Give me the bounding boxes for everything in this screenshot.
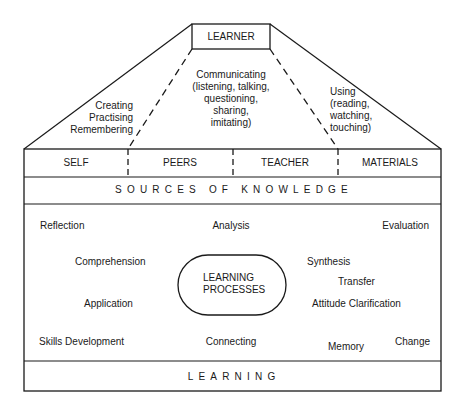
diagram-frame [0,0,463,415]
process-memory: Memory [328,341,364,353]
source-teacher: TEACHER [261,157,309,169]
pathway-self-text: Creating Practising Remembering [13,100,133,136]
process-attitude-clarification: Attitude Clarification [312,298,401,310]
sources-of-knowledge-banner: SOURCES OF KNOWLEDGE [115,184,353,196]
process-application: Application [84,298,133,310]
pathway-materials-text: Using (reading, watching, touching) [330,86,372,134]
source-self: SELF [63,157,88,169]
pathway-peers-teacher-text: Communicating (listening, talking, quest… [192,69,269,129]
process-analysis: Analysis [212,220,249,232]
learning-banner: LEARNING [188,371,281,383]
process-synthesis: Synthesis [307,256,350,268]
process-skills-development: Skills Development [39,336,124,348]
process-change: Change [395,336,430,348]
right-dashed-slope [270,49,338,149]
source-peers: PEERS [163,157,197,169]
process-evaluation: Evaluation [382,220,429,232]
process-reflection: Reflection [40,220,84,232]
process-comprehension: Comprehension [75,256,146,268]
learner-label: LEARNER [207,31,254,43]
process-transfer: Transfer [338,276,375,288]
learning-processes-label: LEARNING PROCESSES [203,272,265,296]
source-materials: MATERIALS [362,157,418,169]
process-connecting: Connecting [206,336,257,348]
